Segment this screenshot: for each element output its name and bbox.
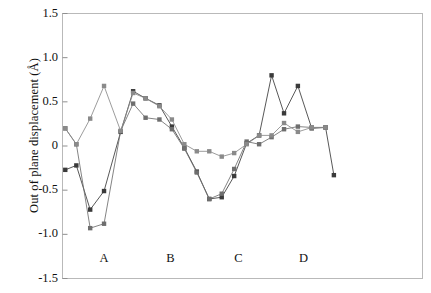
data-point-marker [143,116,147,120]
chart-figure: Out of plane displacement (Å) 1.51.00.50… [0,0,431,293]
data-point-marker [170,127,174,131]
series-line [65,86,325,157]
series-line [65,104,325,229]
data-point-marker [63,168,67,172]
data-point-marker [257,142,261,146]
series-series-1 [63,73,336,212]
data-point-marker [131,91,135,95]
data-point-marker [323,125,327,129]
data-point-marker [157,117,161,121]
plot-area [0,0,431,293]
data-point-marker [88,207,92,211]
data-point-marker [157,104,161,108]
data-point-marker [332,173,336,177]
data-point-marker [282,127,286,131]
data-point-marker [269,133,273,137]
series-series-3 [63,84,328,159]
data-point-marker [220,192,224,196]
data-point-marker [296,130,300,134]
series-series-2 [63,101,328,230]
data-point-marker [232,174,236,178]
data-point-marker [269,73,273,77]
data-point-marker [63,126,67,130]
data-point-marker [131,101,135,105]
data-point-marker [102,189,106,193]
data-point-marker [74,142,78,146]
data-point-marker [102,222,106,226]
data-point-marker [195,149,199,153]
y-tick-marks [63,14,68,279]
data-point-marker [102,84,106,88]
data-point-marker [88,116,92,120]
data-point-marker [220,154,224,158]
data-point-marker [244,142,248,146]
data-point-marker [207,197,211,201]
data-point-marker [182,142,186,146]
data-point-marker [74,163,78,167]
data-point-marker [195,170,199,174]
data-point-marker [310,125,314,129]
data-point-marker [296,124,300,128]
data-point-marker [143,96,147,100]
data-point-marker [232,151,236,155]
data-point-marker [282,111,286,115]
data-point-marker [232,167,236,171]
data-point-marker [182,146,186,150]
data-point-marker [170,117,174,121]
data-point-marker [296,84,300,88]
data-point-marker [88,226,92,230]
data-series-layer [63,73,336,230]
data-point-marker [118,129,122,133]
data-point-marker [282,121,286,125]
data-point-marker [207,149,211,153]
data-point-marker [257,133,261,137]
